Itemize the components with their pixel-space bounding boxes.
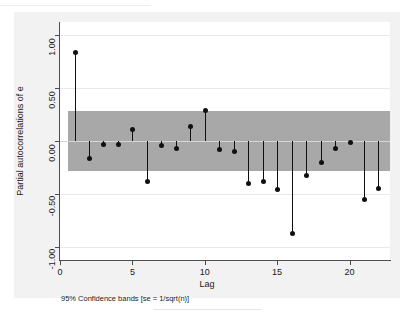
pacf-point: [246, 181, 251, 186]
y-tick-label: 0.00: [47, 141, 57, 165]
pacf-point: [232, 149, 237, 154]
pacf-stem: [364, 141, 365, 199]
x-tick-label: 15: [272, 267, 282, 277]
x-tick-mark: [205, 261, 206, 265]
y-tick-label: -0.50: [47, 194, 57, 218]
pacf-stem: [263, 141, 264, 181]
x-tick-label: 20: [344, 267, 354, 277]
x-tick-label: 5: [130, 267, 135, 277]
x-tick-mark: [350, 261, 351, 265]
gridline: [60, 88, 390, 89]
gridline: [60, 194, 390, 195]
x-axis-line: [59, 260, 391, 261]
y-axis-title: Partial autocorrelations of e: [15, 86, 25, 196]
pacf-stem: [147, 141, 148, 181]
pacf-stem: [205, 110, 206, 141]
gridline: [60, 247, 390, 248]
pacf-point: [174, 146, 179, 151]
zero-reference-line: [60, 141, 390, 142]
x-tick-mark: [60, 261, 61, 265]
pacf-point: [304, 173, 309, 178]
pacf-point: [73, 50, 78, 55]
screenshot-root: —————————————————— 1.000.500.00-0.50-1.0…: [0, 0, 414, 315]
pacf-point: [348, 140, 353, 145]
y-tick-label: 1.00: [47, 35, 57, 59]
x-tick-mark: [277, 261, 278, 265]
plot-panel: [60, 22, 390, 260]
pacf-stem: [292, 141, 293, 233]
pacf-point: [275, 187, 280, 192]
pacf-point: [362, 197, 367, 202]
pacf-stem: [306, 141, 307, 175]
pacf-stem: [277, 141, 278, 190]
cropped-header-text: ——————————————————: [0, 0, 414, 9]
pacf-point: [261, 179, 266, 184]
pacf-point: [145, 179, 150, 184]
pacf-point: [319, 160, 324, 165]
pacf-figure: 1.000.500.00-0.50-1.00 05101520 Partial …: [14, 12, 400, 298]
pacf-point: [116, 142, 121, 147]
pacf-stem: [248, 141, 249, 184]
cropped-figure-caption: ————————————: [0, 303, 414, 315]
pacf-point: [333, 146, 338, 151]
pacf-stem: [75, 53, 76, 141]
confidence-band-footnote: 95% Confidence bands [se = 1/sqrt(n)]: [61, 294, 189, 303]
pacf-point: [203, 108, 208, 113]
y-tick-label: -1.00: [47, 247, 57, 271]
gridline: [60, 35, 390, 36]
x-axis-title: Lag: [14, 279, 400, 289]
pacf-stem: [378, 141, 379, 189]
pacf-point: [290, 231, 295, 236]
pacf-point: [376, 186, 381, 191]
x-tick-label: 0: [57, 267, 62, 277]
pacf-point: [188, 124, 193, 129]
x-tick-label: 10: [200, 267, 210, 277]
x-tick-mark: [132, 261, 133, 265]
pacf-point: [87, 156, 92, 161]
y-tick-label: 0.50: [47, 88, 57, 112]
